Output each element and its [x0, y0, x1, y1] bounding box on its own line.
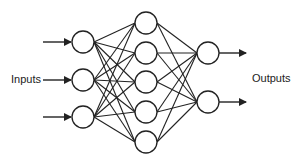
hidden-layer	[135, 12, 157, 153]
hidden-node	[135, 101, 157, 123]
input-node	[72, 106, 94, 128]
input-node	[72, 31, 94, 53]
hidden-node	[135, 131, 157, 153]
input-node	[72, 69, 94, 91]
output-node	[197, 91, 219, 113]
outputs-label: Outputs	[252, 73, 291, 84]
input-layer	[72, 31, 94, 128]
output-layer	[197, 42, 219, 113]
connections-hidden-output	[157, 23, 197, 142]
hidden-node	[135, 42, 157, 64]
connections-input-hidden	[94, 23, 135, 142]
input-arrows	[43, 42, 71, 117]
inputs-label: Inputs	[11, 74, 41, 85]
hidden-node	[135, 71, 157, 93]
output-arrows	[219, 53, 246, 102]
output-node	[197, 42, 219, 64]
hidden-node	[135, 12, 157, 34]
